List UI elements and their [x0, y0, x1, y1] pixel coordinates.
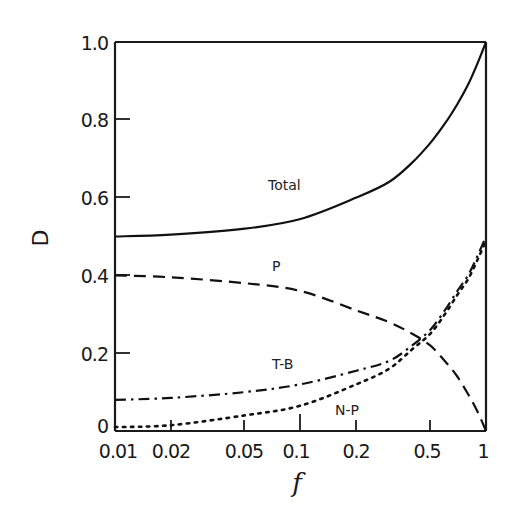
y-tick-label: 0.4	[81, 265, 109, 287]
y-tick-label: 0	[97, 415, 108, 437]
x-tick-label: 0.01	[99, 440, 137, 462]
x-axis-title: f	[290, 468, 306, 498]
label-total: Total	[267, 177, 301, 193]
x-tick-label: 0.1	[282, 440, 309, 462]
x-tick-label: 1	[477, 440, 488, 462]
plot-frame	[115, 42, 486, 431]
label-tb: T-B	[271, 356, 293, 372]
label-np: N-P	[335, 402, 359, 418]
x-tick-label: 0.2	[342, 440, 369, 462]
x-tick-labels: 0.01 0.02 0.05 0.1 0.2 0.5 1	[99, 440, 489, 462]
y-tick-label: 0.6	[81, 187, 108, 209]
curves	[115, 42, 486, 431]
curve-tb	[115, 237, 486, 400]
curve-p	[115, 275, 486, 431]
chart: 1.0 0.8 0.6 0.4 0.2 0 0.01 0.02 0.05 0.1…	[0, 0, 514, 531]
y-tick-label: 1.0	[81, 32, 108, 54]
x-tick-label: 0.5	[413, 440, 440, 462]
y-tick-label: 0.8	[81, 109, 108, 131]
y-axis-title: D	[28, 230, 53, 247]
label-p: P	[272, 258, 280, 274]
curve-total	[115, 42, 486, 237]
y-tick-labels: 1.0 0.8 0.6 0.4 0.2 0	[81, 32, 109, 437]
x-tick-label: 0.02	[152, 440, 190, 462]
x-tick-label: 0.05	[225, 440, 263, 462]
curve-np	[115, 240, 486, 427]
y-tick-label: 0.2	[81, 343, 108, 365]
x-ticks	[171, 414, 430, 431]
